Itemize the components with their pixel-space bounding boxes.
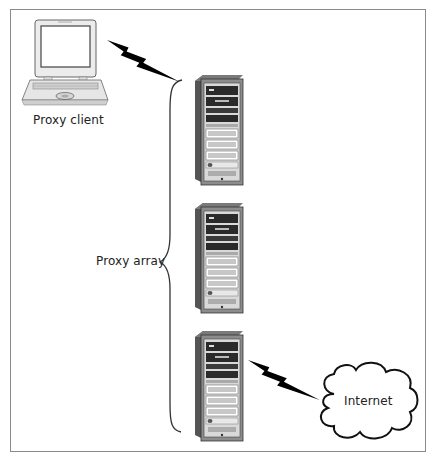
server-icon — [195, 331, 243, 441]
internet-label: Internet — [344, 394, 392, 408]
proxy-array-label: Proxy array — [96, 254, 165, 268]
laptop-icon — [22, 20, 108, 105]
wireless-link-icon — [107, 40, 180, 82]
server-icon — [195, 75, 243, 185]
wireless-link-icon — [248, 360, 320, 400]
server-icon — [195, 203, 243, 313]
proxy-client-label: Proxy client — [33, 113, 104, 127]
